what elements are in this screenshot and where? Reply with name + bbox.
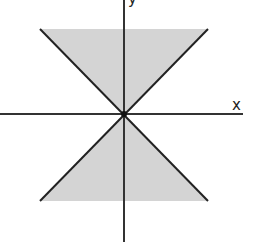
- y-axis-label: y: [128, 0, 137, 8]
- origin-point: [121, 111, 127, 117]
- x-axis-label: x: [232, 96, 241, 114]
- diagram-canvas: x y: [0, 0, 254, 250]
